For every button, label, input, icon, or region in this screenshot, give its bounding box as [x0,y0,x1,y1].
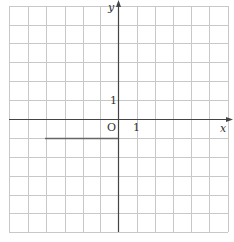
y-arrow-icon [116,0,121,7]
x-arrow-icon [226,117,233,122]
x-unit-label: 1 [133,122,140,133]
coordinate-grid [0,0,234,242]
y-axis-label: y [108,2,114,13]
y-unit-label: 1 [110,95,117,106]
x-axis-label: x [220,123,226,134]
origin-label: O [107,122,116,133]
